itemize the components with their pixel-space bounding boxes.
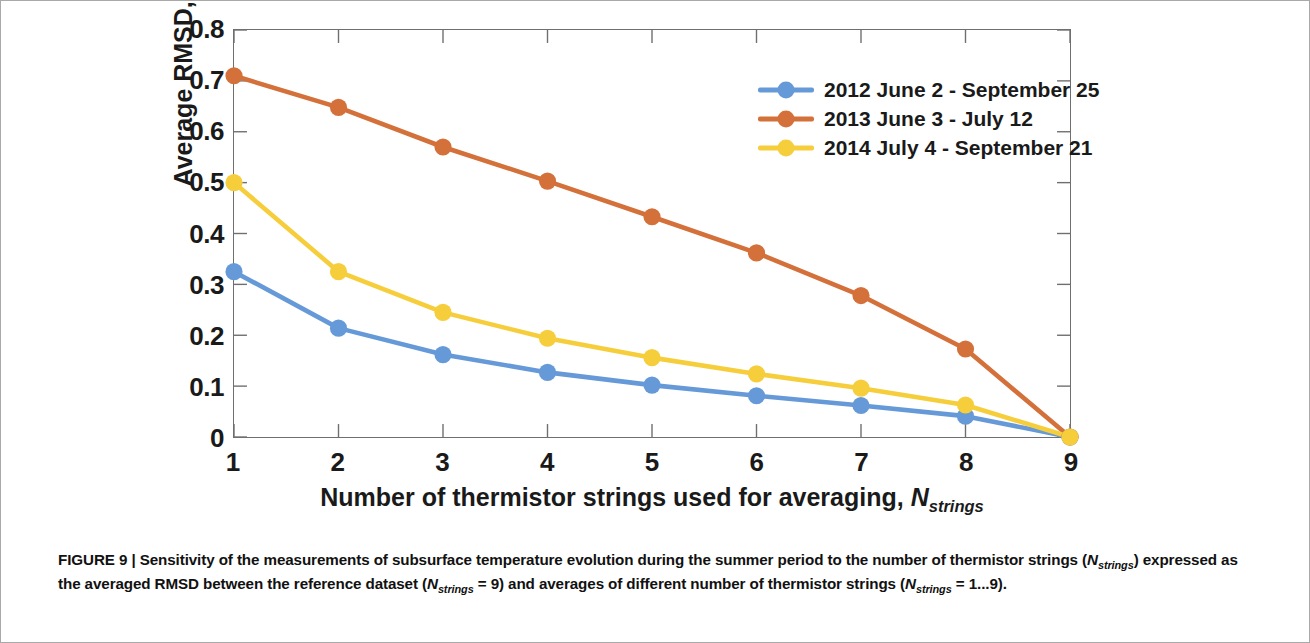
x-axis-tick-label: 7 [832, 447, 892, 478]
y-axis-tick-label: 0.2 [154, 320, 224, 351]
caption-n-symbol-2: N [427, 575, 438, 592]
caption-sentence-3: = 9) and averages of different number of… [474, 575, 896, 592]
legend-label: 2013 June 3 - July 12 [824, 107, 1033, 131]
series-marker-1 [748, 244, 765, 261]
series-marker-1 [957, 340, 974, 357]
legend-swatch-icon [758, 79, 814, 101]
series-marker-1 [852, 287, 869, 304]
series-marker-2 [643, 349, 660, 366]
y-axis-tick-label: 0.3 [154, 269, 224, 300]
series-marker-1 [643, 208, 660, 225]
series-marker-1 [434, 138, 451, 155]
figure-caption: FIGURE 9 | Sensitivity of the measuremen… [58, 549, 1258, 597]
legend-label: 2014 July 4 - September 21 [824, 136, 1092, 160]
y-axis-title: Average RMSD, [°C] [169, 0, 198, 233]
series-marker-2 [330, 263, 347, 280]
x-axis-tick-label: 5 [622, 447, 682, 478]
series-marker-0 [330, 320, 347, 337]
legend-swatch-icon [758, 137, 814, 159]
x-axis-tick-label: 4 [517, 447, 577, 478]
series-marker-0 [852, 397, 869, 414]
x-axis-tick-label: 3 [413, 447, 473, 478]
series-marker-2 [539, 330, 556, 347]
x-axis-title: Number of thermistor strings used for av… [233, 483, 1071, 516]
series-marker-0 [539, 364, 556, 381]
caption-separator: | [131, 551, 135, 568]
x-axis-tick-label: 8 [936, 447, 996, 478]
x-axis-title-symbol: N [911, 483, 929, 511]
series-marker-2 [852, 380, 869, 397]
series-marker-1 [330, 99, 347, 116]
chart-legend: 2012 June 2 - September 252013 June 3 - … [758, 75, 1099, 162]
x-axis-tick-labels: 123456789 [233, 447, 1071, 481]
series-marker-1 [225, 67, 242, 84]
legend-item[interactable]: 2013 June 3 - July 12 [758, 104, 1099, 133]
caption-n-subscript-3: strings [916, 583, 952, 595]
caption-n-subscript-1: strings [1098, 559, 1134, 571]
x-axis-tick-label: 2 [308, 447, 368, 478]
series-marker-2 [1061, 428, 1078, 445]
caption-n-symbol-3: N [905, 575, 916, 592]
caption-sentence-1: Sensitivity of the measurements of subsu… [140, 551, 1078, 568]
series-marker-1 [539, 173, 556, 190]
series-marker-0 [225, 263, 242, 280]
x-axis-tick-label: 6 [727, 447, 787, 478]
caption-n-symbol-1: N [1087, 551, 1098, 568]
caption-n-subscript-2: strings [438, 583, 474, 595]
y-axis-tick-label: 0.1 [154, 371, 224, 402]
figure-container: 00.10.20.30.40.50.60.70.8 Average RMSD, … [0, 0, 1310, 643]
series-marker-2 [957, 396, 974, 413]
series-marker-2 [225, 174, 242, 191]
x-axis-tick-label: 9 [1041, 447, 1101, 478]
x-axis-tick-label: 1 [203, 447, 263, 478]
legend-item[interactable]: 2014 July 4 - September 21 [758, 133, 1099, 162]
series-marker-0 [434, 346, 451, 363]
x-axis-title-text: Number of thermistor strings used for av… [320, 483, 910, 511]
series-marker-2 [434, 304, 451, 321]
series-marker-0 [748, 387, 765, 404]
legend-swatch-icon [758, 108, 814, 130]
legend-dot-icon [778, 81, 795, 98]
legend-dot-icon [778, 110, 795, 127]
series-marker-0 [643, 377, 660, 394]
caption-label: FIGURE 9 [58, 551, 127, 568]
legend-item[interactable]: 2012 June 2 - September 25 [758, 75, 1099, 104]
legend-dot-icon [778, 139, 795, 156]
series-marker-2 [748, 365, 765, 382]
legend-label: 2012 June 2 - September 25 [824, 78, 1099, 102]
x-axis-title-subscript: strings [929, 497, 984, 515]
caption-sentence-4: = 1...9). [952, 575, 1007, 592]
